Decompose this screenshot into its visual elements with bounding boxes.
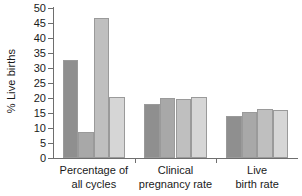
y-axis-tick-label: 50 — [2, 3, 46, 14]
x-axis-group-label: Livebirth rate — [206, 164, 302, 192]
y-axis-tick-label: 0 — [2, 153, 46, 164]
x-axis-group-label-line: Live — [206, 164, 302, 178]
bar-chart: % Live births 05101520253035404550 Perce… — [0, 0, 302, 196]
bar — [191, 97, 207, 158]
bar — [242, 112, 258, 158]
bar — [144, 104, 160, 158]
x-axis-separator — [216, 158, 217, 163]
bar — [94, 18, 110, 158]
bar — [78, 132, 94, 158]
bar — [273, 110, 289, 158]
y-axis-tick-labels: 05101520253035404550 — [0, 0, 46, 196]
y-axis-tick-label: 10 — [2, 123, 46, 134]
bar — [226, 116, 242, 158]
bar — [109, 97, 125, 158]
bar — [63, 60, 79, 158]
y-axis-tick-label: 25 — [2, 78, 46, 89]
y-axis-tick-label: 40 — [2, 33, 46, 44]
x-axis-group-label-line: birth rate — [206, 178, 302, 192]
y-axis-tick-label: 20 — [2, 93, 46, 104]
bar — [176, 99, 192, 158]
y-axis-tick-label: 15 — [2, 108, 46, 119]
bar — [160, 98, 176, 158]
x-axis-separator — [135, 158, 136, 163]
y-axis-tick-label: 30 — [2, 63, 46, 74]
bar — [257, 109, 273, 158]
x-axis-line — [53, 158, 298, 159]
y-axis-tick-label: 5 — [2, 138, 46, 149]
y-axis-tick-label: 35 — [2, 48, 46, 59]
y-axis-tick-label: 45 — [2, 18, 46, 29]
plot-area — [53, 8, 298, 158]
